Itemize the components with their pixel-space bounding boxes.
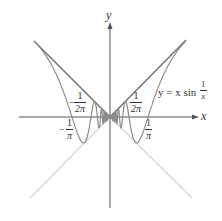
- function-graph: y x y = x sin 1 x − 1 2π 1 2π − 1 π 1 π: [0, 0, 222, 221]
- function-label-fraction: 1 x: [200, 80, 207, 101]
- y-axis-label: y: [106, 9, 111, 21]
- x-axis-label: x: [201, 110, 206, 122]
- plot-canvas: [0, 0, 222, 221]
- y-axis-arrow-icon: [108, 22, 113, 29]
- x-axis-arrow-icon: [192, 115, 199, 120]
- function-label: y = x sin: [158, 87, 196, 98]
- tick-neg-1-over-2pi: 1 2π: [74, 91, 86, 114]
- tick-pos-1-over-2pi: 1 2π: [130, 91, 142, 114]
- tick-pos-1-over-pi: 1 π: [145, 118, 152, 141]
- tick-neg-1-over-pi-sign: −: [59, 124, 65, 135]
- tick-neg-1-over-pi: 1 π: [66, 118, 73, 141]
- upper-envelope-right: [110, 40, 186, 117]
- function-label-prefix: y = x sin: [158, 86, 196, 98]
